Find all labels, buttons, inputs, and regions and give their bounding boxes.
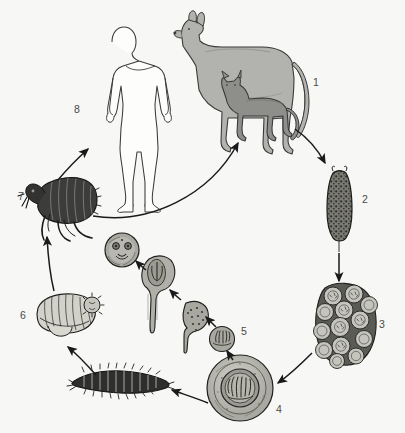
stage-label-2: 2 <box>362 194 368 205</box>
arrow-egg-packet-to-egg <box>278 353 312 383</box>
stage-label-8: 8 <box>74 104 80 115</box>
arrow-flea-to-host <box>93 143 238 218</box>
arrow-oncosphere-to-early-cysticercoid <box>206 317 216 327</box>
stage-label-3: 3 <box>379 319 385 330</box>
arrow-egg-to-oncosphere <box>227 351 233 360</box>
stage-label-6: 6 <box>20 310 26 321</box>
stage-label-1: 1 <box>313 77 319 88</box>
arrow-host-to-proglottid <box>295 129 325 163</box>
stage-label-7: 7 <box>18 191 24 202</box>
arrow-pupa-to-adult-flea <box>47 237 54 291</box>
life-cycle-diagram: 1 2 3 4 5 6 7 8 <box>0 0 405 433</box>
arrow-flea-larva-to-pupa <box>68 347 96 375</box>
stage-label-4: 4 <box>276 404 282 415</box>
stage-label-5: 5 <box>241 326 247 337</box>
arrow-developing-to-mature-cysticercoid <box>136 261 146 270</box>
arrow-early-to-developing-cysticercoid <box>170 290 181 300</box>
arrow-egg-to-flea-larva <box>172 390 208 403</box>
arrow-layer <box>0 0 405 433</box>
arrow-flea-to-human <box>58 149 88 180</box>
